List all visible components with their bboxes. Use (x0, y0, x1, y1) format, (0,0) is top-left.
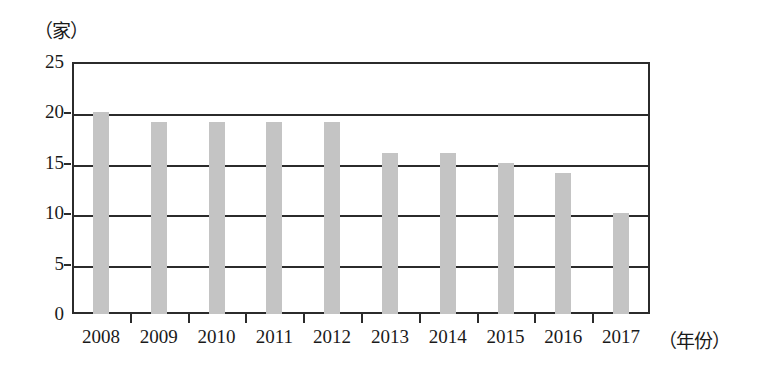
y-axis-tick-label: 20 (26, 101, 64, 123)
x-axis-tick-labels: 2008200920102011201220132014201520162017 (72, 326, 650, 356)
y-axis-unit-label: （家） (34, 16, 88, 43)
x-axis-tick-marks (72, 314, 650, 324)
y-axis-tick-label: 0 (26, 303, 64, 325)
x-axis-tick-mark (534, 314, 536, 323)
y-axis-tick-mark (64, 213, 71, 215)
x-axis-tick-mark (188, 314, 190, 323)
y-axis-tick-labels: 0510152025 (26, 62, 64, 314)
x-axis-tick-mark (130, 314, 132, 323)
y-axis-tick-mark (64, 264, 71, 266)
bar (93, 112, 109, 314)
x-axis-tick-mark (419, 314, 421, 323)
x-axis-tick-label: 2014 (429, 326, 467, 348)
x-axis-tick-mark (361, 314, 363, 323)
x-axis-tick-label: 2012 (313, 326, 351, 348)
bar-series (72, 62, 650, 314)
x-axis-tick-mark (303, 314, 305, 323)
bar (555, 173, 571, 314)
y-axis-tick-label: 15 (26, 152, 64, 174)
y-axis-tick-label: 5 (26, 253, 64, 275)
x-axis-tick-label: 2017 (602, 326, 640, 348)
x-axis-unit-label: （年份） (658, 326, 730, 353)
x-axis-tick-label: 2015 (487, 326, 525, 348)
x-axis-tick-label: 2011 (256, 326, 293, 348)
x-axis-tick-label: 2013 (371, 326, 409, 348)
bar (324, 122, 340, 314)
x-axis-tick-label: 2009 (140, 326, 178, 348)
bar (151, 122, 167, 314)
x-axis-tick-mark (477, 314, 479, 323)
y-axis-tick-mark (64, 163, 71, 165)
x-axis-tick-mark (592, 314, 594, 323)
bar (498, 163, 514, 314)
y-axis-tick-mark (64, 112, 71, 114)
bar (440, 153, 456, 314)
bar (382, 153, 398, 314)
x-axis-tick-label: 2008 (82, 326, 120, 348)
y-axis-tick-label: 25 (26, 51, 64, 73)
bar (209, 122, 225, 314)
x-axis-tick-label: 2010 (198, 326, 236, 348)
x-axis-tick-label: 2016 (544, 326, 582, 348)
bar (613, 213, 629, 314)
x-axis-tick-mark (245, 314, 247, 323)
bar (266, 122, 282, 314)
y-axis-tick-label: 10 (26, 202, 64, 224)
bar-chart: （家） 0510152025 2008200920102011201220132… (0, 0, 761, 370)
